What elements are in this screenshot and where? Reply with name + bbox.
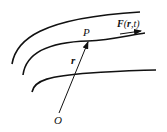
- field-label-close: ): [135, 18, 140, 30]
- point-label: P: [82, 26, 90, 38]
- origin-label: O: [54, 114, 62, 126]
- field-label: F(r,t): [116, 18, 140, 30]
- field-line-middle: [23, 33, 145, 75]
- position-vector-arrow: [59, 42, 88, 113]
- field-line-bottom: [32, 70, 156, 92]
- field-diagram: P F(r,t) r O: [0, 0, 167, 132]
- position-vector-label: r: [71, 54, 76, 66]
